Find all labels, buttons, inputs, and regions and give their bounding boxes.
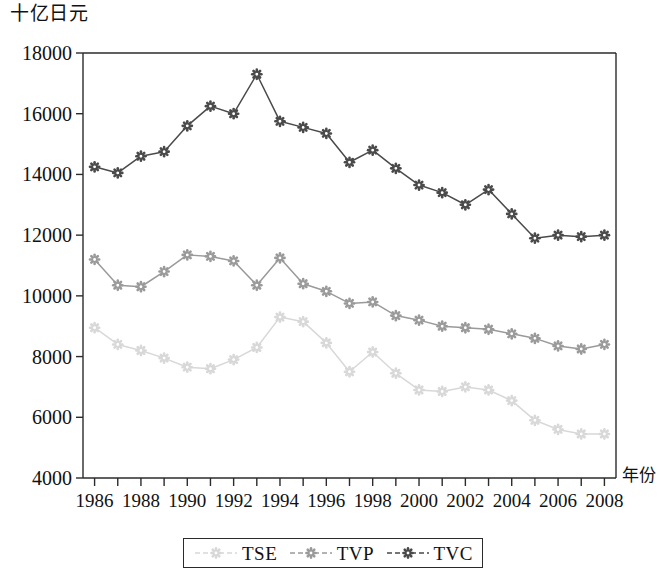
data-point-tse-1999 xyxy=(391,369,400,378)
legend-marker-tvc xyxy=(403,548,412,557)
data-point-tvp-1992 xyxy=(229,256,238,265)
data-point-tvc-1989 xyxy=(160,147,169,156)
data-point-tvc-2003 xyxy=(484,185,493,194)
legend-label-tse: TSE xyxy=(242,544,277,563)
data-point-tse-1991 xyxy=(206,364,215,373)
y-tick-label: 16000 xyxy=(22,103,72,125)
data-point-tse-2003 xyxy=(484,385,493,394)
data-point-tse-2006 xyxy=(553,425,562,434)
data-point-tvc-1995 xyxy=(299,123,308,132)
data-point-tse-1988 xyxy=(136,346,145,355)
data-point-tse-1992 xyxy=(229,355,238,364)
legend-swatch-tse xyxy=(193,546,239,560)
chart-figure: 十亿日元 年份 19861988199019921994199619982000… xyxy=(0,0,662,571)
data-point-tvc-1992 xyxy=(229,109,238,118)
data-point-tvc-1993 xyxy=(252,70,261,79)
data-point-tse-1986 xyxy=(90,323,99,332)
line-chart-plot: 1986198819901992199419961998200020022004… xyxy=(0,0,662,571)
data-point-tvp-1997 xyxy=(345,299,354,308)
legend-label-tvc: TVC xyxy=(434,544,474,563)
series-tse xyxy=(90,313,609,439)
legend-entry-tse[interactable]: TSE xyxy=(193,544,277,563)
data-point-tvp-2004 xyxy=(507,329,516,338)
data-point-tvp-1988 xyxy=(136,282,145,291)
data-point-tvc-1991 xyxy=(206,102,215,111)
data-point-tvp-1999 xyxy=(391,311,400,320)
legend-marker-tvp xyxy=(306,548,315,557)
data-point-tvp-1986 xyxy=(90,255,99,264)
data-point-tvp-1990 xyxy=(183,250,192,259)
data-point-tvp-2002 xyxy=(461,323,470,332)
data-point-tvc-2008 xyxy=(600,231,609,240)
legend-swatch-tvp xyxy=(288,546,334,560)
y-tick-label: 18000 xyxy=(22,42,72,64)
data-point-tvc-2005 xyxy=(530,234,539,243)
series-tvp xyxy=(90,250,609,353)
y-tick-label: 6000 xyxy=(32,406,72,428)
data-point-tvc-1999 xyxy=(391,164,400,173)
data-point-tvp-2000 xyxy=(414,316,423,325)
chart-legend: TSETVPTVC xyxy=(183,538,483,568)
data-point-tse-2004 xyxy=(507,396,516,405)
data-point-tse-1987 xyxy=(113,340,122,349)
data-point-tvc-1986 xyxy=(90,162,99,171)
legend-entry-tvp[interactable]: TVP xyxy=(288,544,374,563)
data-point-tvc-1998 xyxy=(368,146,377,155)
x-tick-label: 1988 xyxy=(122,490,160,511)
data-point-tvc-1994 xyxy=(275,117,284,126)
legend-entry-tvc[interactable]: TVC xyxy=(385,544,474,563)
data-point-tse-2005 xyxy=(530,416,539,425)
x-tick-label: 1994 xyxy=(261,490,300,511)
data-point-tvc-1996 xyxy=(322,129,331,138)
data-point-tvc-1988 xyxy=(136,152,145,161)
x-tick-group: 1986198819901992199419961998200020022004… xyxy=(76,478,624,511)
series-group xyxy=(90,70,609,439)
data-point-tse-2000 xyxy=(414,385,423,394)
data-point-tse-1998 xyxy=(368,347,377,356)
data-point-tse-2008 xyxy=(600,429,609,438)
data-point-tvc-2006 xyxy=(553,231,562,240)
legend-swatch-tvc xyxy=(385,546,431,560)
data-point-tse-1996 xyxy=(322,338,331,347)
data-point-tse-1990 xyxy=(183,363,192,372)
data-point-tse-1994 xyxy=(275,313,284,322)
data-point-tse-1993 xyxy=(252,343,261,352)
x-tick-label: 2008 xyxy=(585,490,623,511)
data-point-tvc-2002 xyxy=(461,200,470,209)
y-tick-label: 12000 xyxy=(22,224,72,246)
data-point-tvp-1987 xyxy=(113,281,122,290)
legend-label-tvp: TVP xyxy=(337,544,374,563)
y-tick-label: 14000 xyxy=(22,163,72,185)
data-point-tvp-2005 xyxy=(530,334,539,343)
x-tick-label: 1990 xyxy=(168,490,206,511)
x-tick-label: 2004 xyxy=(493,490,532,511)
data-point-tvp-1994 xyxy=(275,253,284,262)
data-point-tvc-1987 xyxy=(113,168,122,177)
data-point-tvp-1995 xyxy=(299,279,308,288)
legend-marker-tse xyxy=(211,548,220,557)
data-point-tvc-2004 xyxy=(507,209,516,218)
y-tick-label: 10000 xyxy=(22,285,72,307)
x-tick-label: 2006 xyxy=(539,490,577,511)
data-point-tvp-2006 xyxy=(553,341,562,350)
data-point-tvp-1998 xyxy=(368,297,377,306)
data-point-tse-2001 xyxy=(438,387,447,396)
x-tick-label: 1986 xyxy=(76,490,114,511)
x-tick-label: 2002 xyxy=(446,490,484,511)
data-point-tvp-1993 xyxy=(252,281,261,290)
x-tick-label: 1998 xyxy=(354,490,392,511)
x-tick-label: 1992 xyxy=(215,490,253,511)
data-point-tvc-2000 xyxy=(414,180,423,189)
data-point-tse-2007 xyxy=(577,429,586,438)
data-point-tvp-1989 xyxy=(160,267,169,276)
data-point-tvc-2007 xyxy=(577,232,586,241)
axes-group xyxy=(83,53,616,478)
data-point-tvp-2003 xyxy=(484,325,493,334)
data-point-tvc-1997 xyxy=(345,158,354,167)
x-tick-label: 2000 xyxy=(400,490,438,511)
data-point-tvc-2001 xyxy=(438,188,447,197)
data-point-tvc-1990 xyxy=(183,121,192,130)
y-tick-label: 4000 xyxy=(32,467,72,489)
data-point-tvp-2008 xyxy=(600,340,609,349)
data-point-tvp-1991 xyxy=(206,252,215,261)
